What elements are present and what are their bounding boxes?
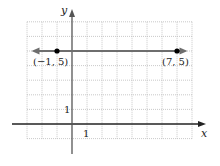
y-axis-label: y [60,4,68,17]
x-axis-label: x [201,127,208,140]
line-left-arrow-icon [32,48,40,55]
coordinate-plane: x y 1 1 (−1, 5)(7, 5) [0,0,220,166]
point-label: (−1, 5) [33,56,68,67]
line-right-arrow-icon [180,48,188,55]
grid [27,22,192,139]
y-axis-arrow-icon [69,9,75,17]
series-layer: (−1, 5)(7, 5) [32,48,189,68]
x-tick-label: 1 [83,128,89,139]
data-point [174,48,179,53]
point-label: (7, 5) [162,56,189,67]
y-tick-label: 1 [64,104,70,115]
data-point [54,48,59,53]
